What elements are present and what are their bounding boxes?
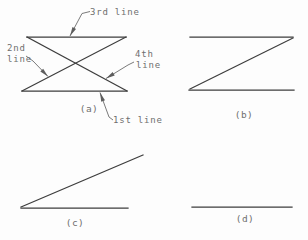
a-fourth-line <box>27 37 127 91</box>
leader-fourth-line <box>106 62 134 79</box>
leader-third-line <box>70 12 90 37</box>
label-2nd-line-row2: line <box>7 54 32 64</box>
figure-c <box>21 155 143 208</box>
drawing-sheet: 3rd line 2nd line 4th line 1st line (a) … <box>0 0 308 240</box>
caption-d: (d) <box>236 213 255 224</box>
label-3rd-line: 3rd line <box>90 7 140 17</box>
label-1st-line: 1st line <box>113 115 163 125</box>
leader-first-line <box>100 93 113 121</box>
label-4th-line-row2: line <box>136 60 161 70</box>
a-second-line <box>22 37 126 91</box>
diagram-canvas: 3rd line 2nd line 4th line 1st line (a) … <box>0 0 308 240</box>
b-diagonal-line <box>190 38 293 89</box>
caption-a: (a) <box>80 103 99 114</box>
label-4th-line-row1: 4th <box>135 49 154 59</box>
figure-a <box>22 12 134 121</box>
c-diagonal-line <box>21 155 143 207</box>
label-2nd-line-row1: 2nd <box>7 43 26 53</box>
caption-b: (b) <box>235 109 254 120</box>
figure-b <box>189 37 294 90</box>
caption-c: (c) <box>66 217 85 228</box>
